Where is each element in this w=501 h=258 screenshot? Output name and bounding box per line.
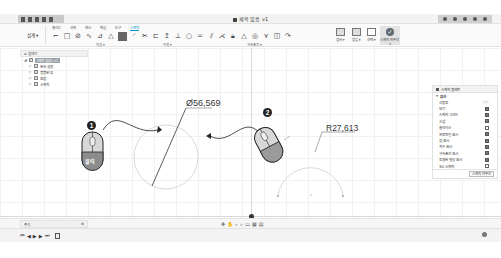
folder-icon	[34, 70, 38, 74]
window-title: 제목 없음 v1	[0, 15, 501, 22]
step-2-badge: 2	[263, 108, 272, 117]
nav-tools: ✥ ✋ ⌕ ⌕ ▭ ▦ ▤	[221, 221, 263, 228]
triangle-tool-icon[interactable]: △	[107, 32, 115, 40]
symmetric-icon[interactable]: ⋎	[262, 32, 270, 40]
perpendicular-icon[interactable]: ⋌	[218, 32, 226, 40]
zoom-icon[interactable]: ⌕	[235, 221, 238, 228]
line-tool-icon[interactable]: ⌐	[52, 32, 60, 40]
close-icon[interactable]	[483, 17, 487, 21]
palette-title[interactable]: 스케치 팔레트	[433, 86, 497, 93]
collapse-icon[interactable]: ▾	[436, 94, 438, 98]
job-status-icon[interactable]	[443, 17, 447, 21]
folder-icon	[34, 82, 38, 86]
display-icon[interactable]: ▭	[245, 221, 250, 228]
viewport-icon[interactable]: ▤	[259, 221, 264, 228]
title-bar: 제목 없음 v1	[0, 14, 501, 24]
constraints-group-label[interactable]: 구속조건 ▾	[247, 42, 262, 47]
equal-icon[interactable]: ═	[196, 32, 204, 40]
orbit-icon[interactable]: ✥	[221, 221, 225, 228]
step-forward-icon[interactable]: ▶	[39, 233, 43, 239]
sketch-tools: ⌐ □ ⊘ ∿ ⊿ △ ◜ ✂ ⊏ ↥ ⊥ ○ ═ ⫽ ⋌ 🔒︎ △ ◎ ⋎ ◫…	[52, 30, 292, 42]
expand-icon[interactable]: ◢	[24, 58, 27, 62]
finish-sketch-palette-button[interactable]: 스케치 마무리	[469, 171, 494, 177]
polygon-tool-icon[interactable]: ⊿	[96, 32, 104, 40]
show-projected-checkbox[interactable]	[485, 158, 489, 162]
add-comment-icon[interactable]: ⊕	[81, 222, 84, 226]
expand-icon[interactable]: ▷	[29, 82, 32, 86]
diameter-dimension[interactable]: Ø56,569	[186, 98, 221, 108]
select-icon	[367, 28, 376, 36]
navigation-bar: 주석 ⊕ ✥ ✋ ⌕ ⌕ ▭ ▦ ▤	[0, 218, 501, 228]
show-dimensions-checkbox[interactable]	[485, 145, 489, 149]
browser-panel: ◂ 검색기 ◢ (제목 없음) v1 ▷ 문서 설정 ▷ 명명된 뷰 ▷ 원점 …	[20, 50, 88, 87]
play-icon[interactable]: ▶	[33, 233, 37, 239]
show-constraints-checkbox[interactable]	[485, 151, 489, 155]
sketch-grid-checkbox[interactable]	[485, 113, 489, 117]
coincident-icon[interactable]: ○	[185, 32, 193, 40]
tree-item-sketches[interactable]: ▷ 스케치	[20, 81, 88, 87]
pan-icon[interactable]: ✋	[227, 221, 233, 228]
offset-tool-icon[interactable]: ⊏	[152, 32, 160, 40]
trim-tool-icon[interactable]: ✂	[141, 32, 149, 40]
select-button[interactable]: 선택 ▾	[364, 28, 378, 44]
modify-group-label[interactable]: 수정 ▾	[163, 42, 172, 47]
measure-icon	[336, 28, 345, 36]
workspace-switcher[interactable]: 설계 ▾	[20, 26, 46, 44]
step-1-badge: 1	[87, 121, 96, 130]
show-profile-checkbox[interactable]	[485, 132, 489, 136]
expand-icon[interactable]: ▷	[29, 76, 32, 80]
create-group-label[interactable]: 작성 ▾	[96, 42, 105, 47]
go-to-end-icon[interactable]: ⏭	[45, 232, 50, 239]
3d-sketch-checkbox[interactable]	[485, 164, 489, 168]
image-icon	[352, 28, 361, 36]
parallel-icon[interactable]: ⫽	[207, 32, 215, 40]
help-icon[interactable]	[463, 17, 467, 21]
look-at-button[interactable]	[485, 107, 489, 111]
spline-tool-icon[interactable]: ∿	[85, 32, 93, 40]
browser-header[interactable]: ◂ 검색기	[20, 50, 88, 57]
inspect-button[interactable]: 검사 ▾	[333, 28, 347, 44]
profile-icon[interactable]	[473, 17, 477, 21]
insert-button[interactable]: 삽입 ▾	[349, 28, 363, 44]
midpoint-icon[interactable]: ◎	[251, 32, 259, 40]
timeline: ⏮ ◀ ▶ ▶ ⏭	[0, 228, 501, 242]
radius-dimension[interactable]: R27,613	[326, 123, 358, 133]
sketch-palette: 스케치 팔레트 ▾ 옵션 선종류 ◁ ▷ 보기 스케치 그리드 스냅 슬라이스 …	[432, 85, 498, 179]
show-points-checkbox[interactable]	[485, 139, 489, 143]
pin-icon[interactable]	[436, 88, 439, 91]
fit-icon[interactable]: ⌕	[240, 221, 243, 228]
step-back-icon[interactable]: ◀	[27, 233, 31, 239]
folder-icon	[34, 76, 38, 80]
dimension-tool-icon[interactable]: ⊥	[174, 32, 182, 40]
component-icon	[29, 58, 33, 62]
header-controls[interactable]	[438, 15, 492, 23]
go-to-start-icon[interactable]: ⏮	[20, 232, 25, 239]
finish-sketch-button[interactable]: ✓ 스케치 마무리 ▾	[380, 26, 400, 45]
timeline-settings-icon[interactable]	[482, 232, 487, 237]
linetype-toggle[interactable]: ◁ ▷	[483, 100, 490, 104]
circle-tool-icon[interactable]: ⊘	[74, 32, 82, 40]
slice-checkbox[interactable]	[485, 126, 489, 130]
check-icon: ✓	[386, 28, 394, 36]
collapse-icon[interactable]: ◂	[24, 52, 26, 56]
expand-icon[interactable]: ▷	[29, 64, 32, 68]
ribbon-toolbar: 설계 ▾ 솔리드 곡면 메시 판금 도구 스케치 ⌐ □ ⊘ ∿ ⊿ △ ◜ ✂…	[0, 24, 501, 47]
settings-icon	[34, 64, 38, 68]
grid-icon[interactable]: ▦	[252, 221, 257, 228]
fusion-app: 제목 없음 v1 설계 ▾ 솔리드 곡면 메시 판금 도구 스케치 ⌐ □ ⊘ …	[0, 0, 501, 258]
horizontal-icon[interactable]: ↷	[284, 32, 292, 40]
curvature-icon[interactable]: ◫	[273, 32, 281, 40]
lock-icon[interactable]: 🔒︎	[229, 32, 237, 40]
notifications-icon[interactable]	[453, 17, 457, 21]
tangent-icon[interactable]: △	[240, 32, 248, 40]
fill-tool-icon[interactable]	[118, 32, 127, 41]
comments-panel[interactable]: 주석 ⊕	[20, 220, 88, 228]
arc-tool-icon[interactable]: ◜	[130, 32, 138, 40]
snap-checkbox[interactable]	[485, 119, 489, 123]
document-icon	[233, 18, 237, 22]
mirror-tool-icon[interactable]: ↥	[163, 32, 171, 40]
sketch-timeline-feature-icon[interactable]	[55, 233, 60, 239]
mouse-left-click-icon	[82, 132, 103, 170]
expand-icon[interactable]: ▷	[29, 70, 32, 74]
rectangle-tool-icon[interactable]: □	[63, 32, 71, 40]
